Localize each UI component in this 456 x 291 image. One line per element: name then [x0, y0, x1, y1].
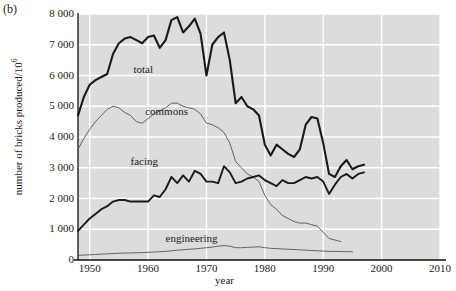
panel-label: (b)	[3, 2, 17, 17]
x-axis-tick-label: 2000	[352, 262, 412, 274]
x-axis-tick-label: 1970	[176, 262, 236, 274]
y-axis-tick-label: 2 000	[30, 193, 74, 204]
y-axis-tick-label: 6 000	[30, 70, 74, 81]
series-label-total: total	[133, 63, 153, 75]
y-axis-tick-label: 3 000	[30, 162, 74, 173]
series-label-commons: commons	[145, 105, 188, 117]
x-axis-tick-label: 1980	[235, 262, 295, 274]
y-axis-tick-label: 1 000	[30, 223, 74, 234]
y-axis-tick-label: 4 000	[30, 131, 74, 142]
y-axis-label-exponent: 6	[10, 59, 19, 63]
y-axis-tick-label: 7 000	[30, 39, 74, 50]
x-axis-tick-label: 1950	[60, 262, 120, 274]
y-axis-tick-label: 5 000	[30, 100, 74, 111]
y-axis-label: number of bricks produced/106	[10, 27, 24, 227]
series-label-engineering: engineering	[166, 232, 218, 244]
y-axis-label-text: number of bricks produced/10	[12, 62, 24, 195]
y-axis-tick-label: 8 000	[30, 8, 74, 19]
series-label-facing: facing	[131, 155, 158, 167]
x-axis-tick-label: 1990	[293, 262, 353, 274]
x-axis-label: year	[0, 274, 449, 286]
x-axis-tick-label: 1960	[118, 262, 178, 274]
y-axis-ticks: 01 0002 0003 0004 0005 0006 0007 0008 00…	[28, 0, 74, 291]
x-axis-tick-label: 2010	[410, 262, 456, 274]
